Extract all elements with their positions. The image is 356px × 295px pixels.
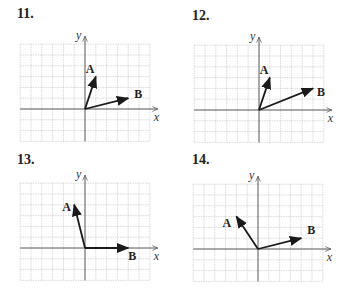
- x-axis-label: x: [326, 250, 333, 264]
- vector-label: B: [317, 85, 325, 99]
- x-axis-label: x: [153, 110, 160, 124]
- vector-label: A: [62, 200, 71, 214]
- vector-label: B: [307, 223, 315, 237]
- vector-label: A: [260, 63, 269, 77]
- vector-label: A: [86, 62, 95, 76]
- y-axis-label: y: [75, 28, 82, 42]
- x-axis-label: x: [327, 111, 334, 125]
- y-axis-label: y: [248, 168, 255, 182]
- vector-label: A: [222, 216, 231, 230]
- vector-label: B: [128, 249, 136, 263]
- vector-a: [259, 78, 270, 110]
- vector-a: [85, 77, 96, 109]
- y-axis-label: y: [75, 167, 82, 181]
- y-axis-label: y: [249, 29, 256, 43]
- vector-diagrams: xyABxyABxyABxyAB: [0, 0, 356, 295]
- x-axis-label: x: [153, 249, 160, 263]
- vector-a: [236, 217, 258, 249]
- vector-label: B: [134, 87, 142, 101]
